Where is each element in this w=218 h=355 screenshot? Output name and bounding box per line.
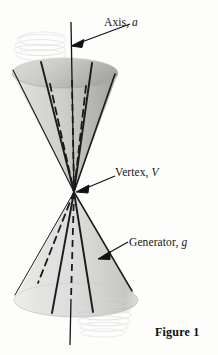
label-vertex-symbol: V (152, 166, 159, 178)
double-cone-diagram (0, 0, 218, 355)
vertex-leader-arrowhead (76, 185, 89, 193)
figure-page: Axis, a Vertex, V Generator, g Figure 1 (0, 0, 218, 355)
label-vertex-text: Vertex, (115, 166, 149, 178)
upper-nappe (12, 58, 118, 192)
label-axis-text: Axis, (104, 16, 129, 28)
lower-nappe (14, 192, 138, 317)
lower-nappe-body (14, 192, 138, 317)
label-generator-text: Generator, (129, 236, 178, 248)
label-axis: Axis, a (104, 17, 138, 29)
scan-artifact-top (14, 32, 66, 61)
figure-caption: Figure 1 (155, 325, 199, 340)
label-axis-symbol: a (132, 16, 138, 28)
label-generator: Generator, g (129, 237, 187, 249)
label-vertex: Vertex, V (115, 167, 159, 179)
label-generator-symbol: g (181, 236, 187, 248)
axis-leader-arrowhead (71, 40, 84, 48)
